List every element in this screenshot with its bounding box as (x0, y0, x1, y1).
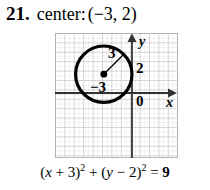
origin-label: 0 (136, 93, 144, 109)
problem-number: 21. (6, 3, 30, 24)
problem-header: 21.center:(−3, 2) (6, 2, 210, 26)
equation-equals-sign: = (146, 164, 162, 180)
center-label: center: (37, 4, 86, 24)
equation-term2-variable: y (106, 164, 113, 180)
equation-term1-operator: + (52, 164, 68, 180)
radius-annotation: 3 (108, 45, 116, 61)
y-axis-label: y (137, 34, 146, 49)
grid-background (56, 34, 178, 158)
center-x-annotation: −3 (90, 79, 106, 95)
equation-term2-operator: − (113, 164, 129, 180)
equation-right-hand-side: 9 (162, 164, 170, 180)
x-axis-label: x (165, 95, 173, 110)
equation-term1-variable: x (45, 164, 52, 180)
circle-equation: (x + 3)2 + (y − 2)2 = 9 (0, 162, 210, 181)
circle-graph-figure: 3 −3 2 0 y x (55, 33, 178, 158)
graph-canvas: 3 −3 2 0 y x (55, 33, 178, 158)
center-point-marker (100, 71, 107, 78)
equation-plus-operator: + (85, 164, 101, 180)
center-coordinate-value: (−3, 2) (88, 4, 137, 24)
y-tick-label-2: 2 (136, 60, 144, 76)
